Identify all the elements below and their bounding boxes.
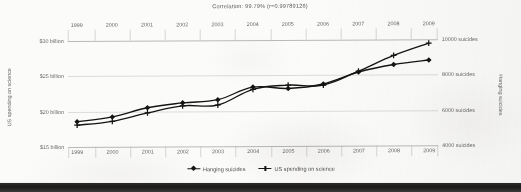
x-axis-tick bbox=[305, 29, 306, 40]
y-axis-left-title: US spending on science bbox=[6, 62, 12, 132]
y-axis-right-tick-label: 6000 suicides bbox=[442, 107, 475, 113]
x-axis-tick bbox=[200, 146, 201, 157]
x-axis-tick bbox=[130, 147, 131, 158]
plus-marker-horizontal bbox=[262, 168, 268, 169]
x-axis-tick bbox=[68, 30, 69, 41]
data-point-plus bbox=[74, 122, 80, 128]
x-axis-tick bbox=[236, 146, 237, 157]
chart-figure: Correlation: 99.79% (r=0.99789126) 19992… bbox=[0, 0, 521, 183]
x-axis-label: 2006 bbox=[310, 21, 336, 27]
x-axis-tick bbox=[412, 145, 413, 156]
x-axis-label: 2007 bbox=[346, 147, 372, 153]
x-axis-label: 2005 bbox=[275, 148, 301, 154]
x-axis-label: 1999 bbox=[64, 22, 90, 28]
x-axis-tick bbox=[376, 145, 377, 156]
y-axis-right-title: Hanging suicides bbox=[498, 60, 504, 130]
y-axis-left-tick-label: $15 billion bbox=[40, 144, 64, 150]
x-axis-label: 2000 bbox=[99, 149, 125, 155]
x-axis-label: 2004 bbox=[240, 21, 266, 27]
y-axis-right-tick-label: 10000 suicides bbox=[442, 36, 478, 42]
x-axis-tick bbox=[129, 30, 130, 41]
x-axis-tick bbox=[341, 146, 342, 157]
data-point-diamond bbox=[391, 62, 397, 68]
data-point-plus bbox=[285, 82, 291, 88]
x-axis-tick bbox=[235, 29, 236, 40]
y-axis-left-tick-label: $30 billion bbox=[39, 38, 63, 44]
x-axis-label: 2002 bbox=[169, 21, 195, 27]
x-axis-label: 1999 bbox=[64, 149, 90, 155]
x-axis-tick bbox=[165, 29, 166, 40]
y-axis-right-tick-label: 8000 suicides bbox=[442, 71, 475, 77]
data-point-diamond bbox=[215, 97, 221, 103]
chart-screenshot: Correlation: 99.79% (r=0.99789126) 19992… bbox=[0, 0, 521, 192]
x-axis-tick bbox=[270, 29, 271, 40]
x-axis-tick bbox=[306, 146, 307, 157]
x-axis-label: 2003 bbox=[205, 148, 231, 154]
x-axis-label: 2006 bbox=[311, 148, 337, 154]
legend-diamond-icon bbox=[187, 165, 200, 172]
data-point-plus bbox=[391, 52, 397, 58]
x-axis-tick bbox=[437, 28, 438, 39]
x-axis-label: 2007 bbox=[345, 20, 371, 26]
page-bottom-edge bbox=[0, 183, 521, 192]
data-point-diamond bbox=[145, 105, 151, 111]
x-axis-label: 2008 bbox=[381, 147, 407, 153]
x-axis-tick bbox=[95, 147, 96, 158]
data-point-diamond bbox=[426, 57, 432, 63]
diamond-marker bbox=[190, 166, 196, 172]
x-axis-label: 2000 bbox=[99, 22, 125, 28]
legend-item[interactable]: Hanging suicides bbox=[187, 165, 246, 172]
legend-plus-icon bbox=[258, 165, 271, 172]
x-axis-label: 2003 bbox=[204, 21, 230, 27]
x-axis-label: 2001 bbox=[135, 148, 161, 154]
y-axis-left-tick-label: $20 billion bbox=[40, 109, 64, 115]
legend-label: Hanging suicides bbox=[203, 166, 246, 172]
x-axis-tick bbox=[376, 28, 377, 39]
x-axis-label: 2002 bbox=[170, 148, 196, 154]
x-axis-label: 2009 bbox=[416, 147, 442, 153]
data-point-plus bbox=[215, 102, 221, 108]
plot-series-layer bbox=[68, 39, 439, 147]
legend-item[interactable]: US spending on science bbox=[258, 165, 334, 172]
data-point-plus bbox=[180, 103, 186, 109]
x-axis-label: 2001 bbox=[134, 21, 160, 27]
x-axis-tick bbox=[341, 29, 342, 40]
x-axis-tick bbox=[271, 146, 272, 157]
x-axis-tick bbox=[94, 30, 95, 41]
x-axis-tick bbox=[411, 28, 412, 39]
y-axis-left-tick-label: $25 billion bbox=[40, 73, 64, 79]
x-axis-tick bbox=[200, 29, 201, 40]
data-point-plus bbox=[145, 110, 151, 116]
y-axis-right-labels: 10000 suicides8000 suicides6000 suicides… bbox=[442, 0, 519, 181]
x-axis-label: 2009 bbox=[416, 20, 442, 26]
data-point-plus bbox=[109, 118, 115, 124]
x-axis-tick bbox=[165, 146, 166, 157]
x-axis-label: 2008 bbox=[380, 20, 406, 26]
series-us-spending-on-science bbox=[74, 40, 432, 128]
legend-label: US spending on science bbox=[274, 165, 334, 171]
x-axis-label: 2005 bbox=[275, 21, 301, 27]
data-point-plus bbox=[426, 40, 432, 46]
y-axis-right-tick-label: 4000 suicides bbox=[442, 142, 475, 148]
x-axis-label: 2004 bbox=[240, 148, 266, 154]
